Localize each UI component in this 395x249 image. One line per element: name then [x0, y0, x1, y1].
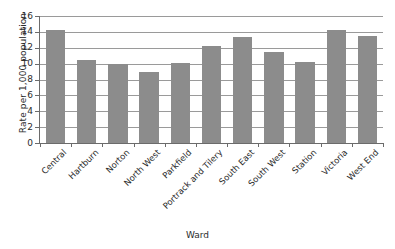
x-tick-mark — [227, 143, 228, 147]
y-tick-label: 10 — [3, 59, 33, 68]
y-tick-label-wrap: 2 — [0, 123, 33, 132]
x-tick-mark — [321, 143, 322, 147]
bar — [46, 30, 65, 144]
bar — [358, 36, 377, 143]
y-tick-label: 6 — [3, 91, 33, 100]
y-tick-label-wrap: 6 — [0, 91, 33, 100]
y-tick-label: 8 — [3, 75, 33, 84]
y-tick-label: 16 — [3, 12, 33, 21]
x-tick-mark — [289, 143, 290, 147]
x-tick-mark — [102, 143, 103, 147]
x-axis-title: Ward — [0, 230, 395, 240]
bar — [264, 52, 283, 143]
y-tick-label-wrap: 8 — [0, 75, 33, 84]
x-tick-mark — [352, 143, 353, 147]
y-tick-label: 4 — [3, 107, 33, 116]
bar — [295, 62, 314, 143]
y-tick-label: 2 — [3, 123, 33, 132]
y-tick-label-wrap: 10 — [0, 59, 33, 68]
y-tick-label-wrap: 16 — [0, 12, 33, 21]
bars-container — [40, 16, 383, 143]
bar — [77, 60, 96, 143]
y-tick-label-wrap: 14 — [0, 27, 33, 36]
x-tick-mark — [165, 143, 166, 147]
x-axis-line — [39, 143, 383, 144]
bar-chart: Rate per 1,000 population 0246810121416 … — [0, 0, 395, 249]
bar — [108, 64, 127, 143]
y-tick-label: 0 — [3, 139, 33, 148]
y-tick-label: 12 — [3, 43, 33, 52]
bar — [139, 72, 158, 143]
x-tick-mark — [196, 143, 197, 147]
bar — [171, 63, 190, 143]
x-tick-mark — [134, 143, 135, 147]
x-tick-mark — [71, 143, 72, 147]
x-tick-mark — [383, 143, 384, 147]
y-tick-label-wrap: 4 — [0, 107, 33, 116]
y-tick-label-wrap: 12 — [0, 43, 33, 52]
x-tick-mark — [258, 143, 259, 147]
y-tick-label-wrap: 0 — [0, 139, 33, 148]
bar — [233, 37, 252, 143]
y-tick-label: 14 — [3, 27, 33, 36]
x-tick-mark — [40, 143, 41, 147]
bar — [202, 46, 221, 143]
bar — [327, 30, 346, 143]
